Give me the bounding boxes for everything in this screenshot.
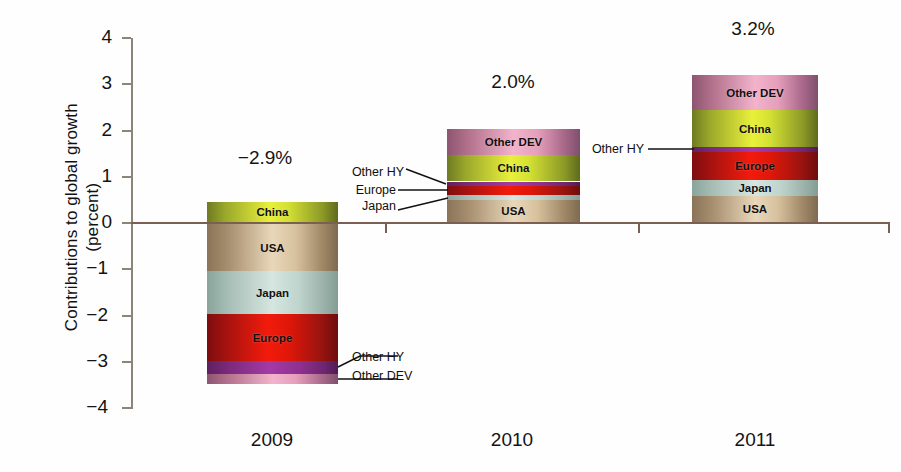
y-tick-3 [122, 83, 131, 85]
x-tick-2010-2011 [638, 224, 640, 233]
segment-2009-other-hy[interactable] [207, 361, 338, 374]
y-tick-label-0: 0 [66, 211, 112, 233]
segment-2011-usa[interactable]: USA [692, 196, 818, 222]
y-tick-2 [122, 130, 131, 132]
segment-label-china: China [692, 123, 818, 135]
callout-2010-japan: Japan [330, 199, 396, 213]
y-tick-label-4: 4 [66, 26, 112, 48]
segment-2009-usa[interactable]: USA [207, 224, 338, 271]
segment-2009-china[interactable]: China [207, 202, 338, 222]
segment-label-europe: Europe [207, 332, 338, 344]
segment-2011-japan[interactable]: Japan [692, 180, 818, 196]
segment-2009-japan[interactable]: Japan [207, 271, 338, 314]
segment-2010-usa[interactable]: USA [447, 200, 580, 222]
total-label-2010: 2.0% [443, 71, 583, 93]
segment-label-europe: Europe [692, 160, 818, 172]
y-tick-1 [122, 176, 131, 178]
callout-2009-other-hy: Other HY [352, 350, 404, 364]
leader-2010-japan [398, 196, 450, 220]
y-tick-label-m2: −2 [62, 304, 108, 326]
y-tick-label-m1: −1 [62, 257, 108, 279]
y-tick-label-m4: −4 [62, 396, 108, 418]
x-label-2009: 2009 [212, 429, 332, 451]
segment-label-japan: Japan [692, 182, 818, 194]
segment-label-usa: USA [692, 203, 818, 215]
callout-2010-europe: Europe [330, 183, 396, 197]
segment-2011-other-dev[interactable]: Other DEV [692, 75, 818, 110]
total-label-2011: 3.2% [683, 18, 823, 40]
y-tick-m1 [122, 268, 131, 270]
segment-label-other-dev: Other DEV [692, 87, 818, 99]
callout-2010-other-hy: Other HY [330, 165, 404, 179]
segment-label-japan: Japan [207, 287, 338, 299]
segment-2010-china[interactable]: China [447, 155, 580, 181]
bar-group-2009[interactable]: China USA Japan Europe [207, 0, 338, 472]
segment-2011-europe[interactable]: Europe [692, 152, 818, 180]
leader-2011-other-hy [648, 142, 696, 162]
segment-2009-other-dev[interactable] [207, 374, 338, 384]
segment-2010-other-dev[interactable]: Other DEV [447, 129, 580, 155]
segment-label-usa: USA [207, 242, 338, 254]
segment-label-china: China [447, 162, 580, 174]
y-tick-label-1: 1 [66, 165, 112, 187]
y-tick-label-m3: −3 [62, 350, 108, 372]
x-tick-2009-2010 [385, 224, 387, 233]
callout-2009-other-dev: Other DEV [352, 369, 412, 383]
y-tick-m4 [122, 407, 131, 409]
y-tick-m2 [122, 315, 131, 317]
stacked-bar-chart: Contributions to global growth (percent)… [0, 0, 901, 472]
total-label-2009: −2.9% [195, 147, 335, 169]
y-tick-m3 [122, 361, 131, 363]
y-tick-4 [122, 37, 131, 39]
segment-label-china: China [207, 206, 338, 218]
x-label-2010: 2010 [452, 429, 572, 451]
callout-2011-other-hy: Other HY [570, 142, 644, 156]
y-tick-0 [122, 222, 131, 224]
y-tick-label-2: 2 [66, 119, 112, 141]
bar-group-2011[interactable]: Other DEV China Europe Japan USA [692, 0, 818, 472]
y-tick-label-3: 3 [66, 72, 112, 94]
segment-label-other-dev: Other DEV [447, 136, 580, 148]
segment-label-usa: USA [447, 205, 580, 217]
x-tick-end [888, 224, 890, 233]
segment-2011-china[interactable]: China [692, 110, 818, 147]
segment-2010-europe[interactable] [447, 186, 580, 195]
x-label-2011: 2011 [695, 429, 815, 451]
segment-2009-europe[interactable]: Europe [207, 314, 338, 361]
